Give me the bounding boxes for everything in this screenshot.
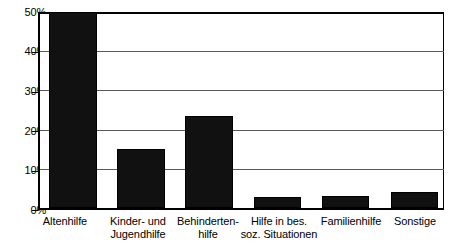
bar-hilfe-bes-soz-situationen xyxy=(254,197,301,208)
plot-right-border xyxy=(443,12,444,208)
bar-familienhilfe xyxy=(322,196,369,208)
plot-area xyxy=(38,12,444,210)
gridline-40 xyxy=(40,51,444,52)
gridline-20 xyxy=(40,130,444,131)
gridline-10 xyxy=(40,169,444,170)
bar-chart: 50% 40% 30% 20% 10% 0% Altenhilfe Kinder… xyxy=(0,0,454,252)
bar-kinder-jugendhilfe xyxy=(117,149,165,208)
bar-behindertenhilfe xyxy=(185,116,233,208)
bar-sonstige xyxy=(391,192,438,208)
bar-altenhilfe xyxy=(49,12,97,208)
plot-top-border xyxy=(40,12,444,14)
gridline-30 xyxy=(40,90,444,91)
x-label-sonstige: Sonstige xyxy=(377,215,453,228)
y-tick-mark-0 xyxy=(32,210,38,211)
